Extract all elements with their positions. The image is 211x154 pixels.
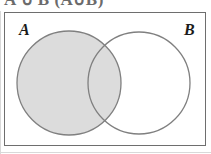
- venn-circles: [0, 0, 211, 154]
- venn-diagram-figure: A ∪ B (A∪B) A B: [0, 0, 211, 154]
- set-a-label: A: [19, 22, 30, 38]
- set-b-label: B: [184, 22, 195, 38]
